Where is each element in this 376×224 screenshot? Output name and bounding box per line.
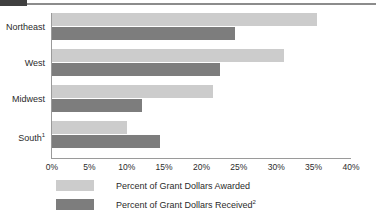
bar-received bbox=[52, 63, 220, 76]
bar-received bbox=[52, 135, 160, 148]
legend-label-awarded: Percent of Grant Dollars Awarded bbox=[116, 181, 250, 191]
category-label: South1 bbox=[18, 130, 45, 144]
category-label: West bbox=[25, 58, 45, 69]
legend-item-received[interactable]: Percent of Grant Dollars Received2 bbox=[56, 197, 256, 212]
bar-group: West bbox=[52, 49, 351, 79]
category-footnote-marker: 1 bbox=[42, 132, 45, 138]
legend-footnote-marker: 2 bbox=[253, 199, 256, 205]
bar-awarded bbox=[52, 121, 127, 134]
bar-group: Northeast bbox=[52, 13, 351, 43]
bar-awarded bbox=[52, 49, 284, 62]
bar-group: Midwest bbox=[52, 85, 351, 115]
header-rule bbox=[0, 3, 376, 5]
bar-received bbox=[52, 99, 142, 112]
category-label: Northeast bbox=[6, 22, 45, 33]
bar-awarded bbox=[52, 85, 213, 98]
bar-received bbox=[52, 27, 235, 40]
bar-group: South1 bbox=[52, 121, 351, 151]
x-tick-label: 40% bbox=[342, 162, 359, 172]
x-tick-label: 35% bbox=[305, 162, 322, 172]
bar-awarded bbox=[52, 13, 317, 26]
x-tick-label: 10% bbox=[118, 162, 135, 172]
chart-legend: Percent of Grant Dollars Awarded Percent… bbox=[0, 178, 376, 218]
x-tick-label: 5% bbox=[83, 162, 95, 172]
legend-label-received: Percent of Grant Dollars Received2 bbox=[116, 199, 256, 210]
legend-item-awarded[interactable]: Percent of Grant Dollars Awarded bbox=[56, 178, 250, 193]
header-tab-marker bbox=[0, 0, 27, 6]
bar-chart: NortheastWestMidwestSouth1 0%5%10%15%20%… bbox=[0, 10, 376, 170]
x-axis-line bbox=[51, 158, 351, 159]
x-tick-label: 30% bbox=[268, 162, 285, 172]
category-label: Midwest bbox=[12, 94, 45, 105]
x-tick-label: 0% bbox=[46, 162, 58, 172]
legend-swatch-awarded bbox=[56, 180, 94, 191]
x-tick-label: 15% bbox=[156, 162, 173, 172]
plot-area: NortheastWestMidwestSouth1 bbox=[52, 13, 351, 156]
legend-swatch-received bbox=[56, 199, 94, 210]
x-tick-label: 25% bbox=[230, 162, 247, 172]
x-tick-label: 20% bbox=[193, 162, 210, 172]
